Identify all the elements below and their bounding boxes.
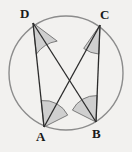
vertex-label-a: A xyxy=(36,130,45,143)
angle-mark-a xyxy=(41,100,67,127)
geometry-canvas xyxy=(0,0,132,152)
geometry-figure: D C A B xyxy=(0,0,132,152)
vertex-label-c: C xyxy=(100,8,109,21)
vertex-label-d: D xyxy=(20,7,29,20)
vertex-label-b: B xyxy=(92,127,101,140)
